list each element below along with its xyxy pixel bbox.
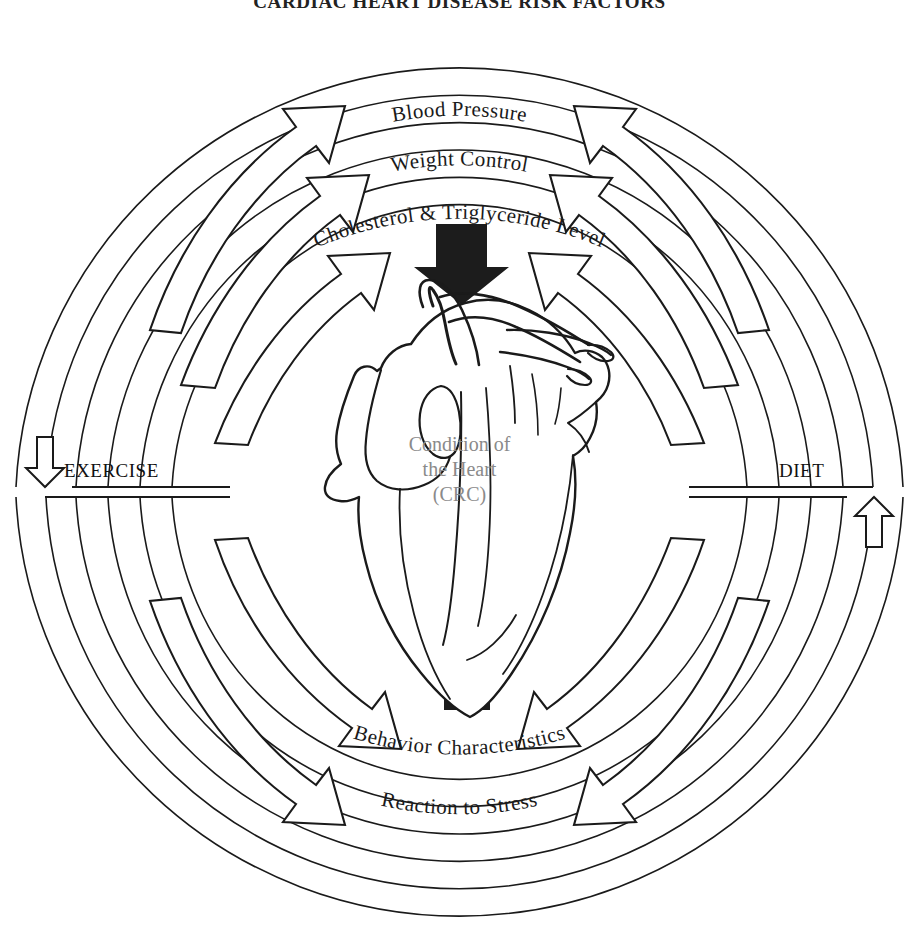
diagram-canvas: CARDIAC HEART DISEASE RISK FACTORS (0, 0, 919, 927)
side-label-diet: DIET (779, 460, 824, 482)
left-terminal-down-arrow (26, 437, 64, 487)
outline-arrow-ll-1 (150, 598, 345, 825)
arc-label-stress: Reaction to Stress (380, 787, 540, 819)
arc-label-weight-control-path: Weight Control (389, 146, 530, 176)
bottom-arc-labels: Behavior Characteristics Reaction to Str… (351, 720, 568, 819)
arrow-group-lower-left (150, 538, 401, 825)
outline-arrow-lr-1 (574, 598, 769, 825)
arc-label-weight-control: Weight Control (389, 146, 530, 176)
arc-label-stress-path: Reaction to Stress (380, 787, 540, 819)
side-label-exercise: EXERCISE (64, 460, 159, 482)
right-terminal-up-arrow (855, 497, 893, 547)
heart-illustration-icon (325, 280, 614, 717)
